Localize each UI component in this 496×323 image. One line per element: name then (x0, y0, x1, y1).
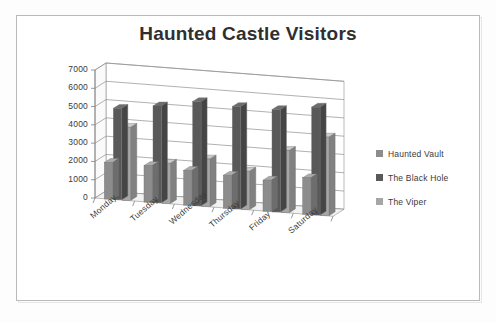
legend-swatch-icon (376, 174, 383, 181)
legend-swatch-icon (376, 150, 383, 157)
y-axis-tick-label: 7000 (50, 64, 88, 74)
y-axis-tick-label: 4000 (50, 119, 88, 129)
legend-label: The Black Hole (388, 173, 448, 183)
y-axis-tick-label: 6000 (50, 82, 88, 92)
legend-item[interactable]: The Black Hole (376, 172, 480, 183)
y-axis-tick-label: 1000 (50, 174, 88, 184)
chart-image-root: Haunted Castle Visitors 7000600050004000… (0, 0, 496, 323)
legend-label: Haunted Vault (388, 149, 444, 159)
chart-title: Haunted Castle Visitors (0, 23, 496, 45)
y-axis-tick-label: 3000 (50, 137, 88, 147)
legend-item[interactable]: The Viper (376, 196, 480, 207)
y-axis-tick-label: 2000 (50, 155, 88, 165)
chart-legend: Haunted VaultThe Black HoleThe Viper (376, 148, 480, 220)
legend-item[interactable]: Haunted Vault (376, 148, 480, 159)
y-axis-tick-label: 0 (50, 192, 88, 202)
legend-label: The Viper (388, 197, 427, 207)
y-axis-tick-label: 5000 (50, 101, 88, 111)
legend-swatch-icon (376, 198, 383, 205)
